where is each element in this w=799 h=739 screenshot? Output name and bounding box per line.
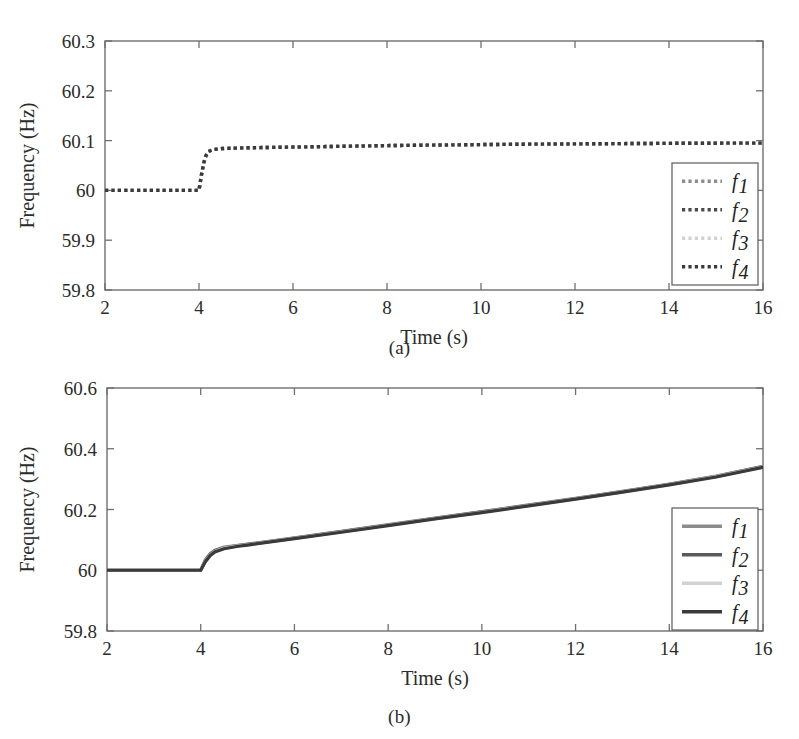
x-tick-label: 16: [754, 638, 773, 659]
x-tick-label: 16: [754, 297, 773, 318]
x-tick-label: 2: [100, 297, 110, 318]
y-tick-label: 60.6: [64, 378, 97, 399]
x-tick-label: 14: [660, 297, 680, 318]
x-tick-label: 4: [196, 638, 206, 659]
y-tick-label: 60.1: [62, 131, 95, 152]
y-tick-label: 59.8: [64, 621, 97, 642]
series-line-f4: [107, 467, 763, 570]
plot-frame: [105, 41, 763, 290]
plot-frame: [107, 388, 763, 631]
x-tick-label: 8: [382, 297, 392, 318]
y-tick-label: 60: [76, 180, 95, 201]
x-tick-label: 12: [566, 297, 585, 318]
chart-panel-b: 24681012141659.86060.260.460.6Time (s)Fr…: [0, 348, 799, 739]
x-tick-label: 4: [194, 297, 204, 318]
y-axis-title: Frequency (Hz): [16, 102, 39, 228]
x-tick-label: 10: [472, 297, 491, 318]
y-tick-label: 59.9: [62, 230, 95, 251]
chart-panel-a: 24681012141659.859.96060.160.260.3Time (…: [0, 0, 799, 370]
y-tick-label: 60: [78, 560, 97, 581]
y-tick-label: 60.4: [64, 439, 98, 460]
y-tick-label: 59.8: [62, 280, 95, 301]
x-axis-title: Time (s): [401, 667, 469, 690]
plot-a: 24681012141659.859.96060.160.260.3Time (…: [0, 0, 799, 348]
caption-b: (b): [0, 706, 799, 728]
series-group: [105, 143, 763, 190]
series-line-f4: [105, 143, 763, 190]
x-tick-label: 12: [566, 638, 585, 659]
x-tick-label: 2: [102, 638, 112, 659]
x-tick-label: 10: [472, 638, 491, 659]
x-tick-label: 14: [660, 638, 680, 659]
y-tick-label: 60.2: [62, 81, 95, 102]
x-tick-label: 8: [383, 638, 393, 659]
figure-frequency-response: 24681012141659.859.96060.160.260.3Time (…: [0, 0, 799, 739]
series-group: [107, 466, 763, 570]
y-tick-label: 60.2: [64, 500, 97, 521]
y-tick-label: 60.3: [62, 31, 95, 52]
x-tick-label: 6: [288, 297, 298, 318]
y-axis-title: Frequency (Hz): [16, 446, 39, 572]
plot-b: 24681012141659.86060.260.460.6Time (s)Fr…: [0, 348, 799, 708]
x-tick-label: 6: [290, 638, 300, 659]
